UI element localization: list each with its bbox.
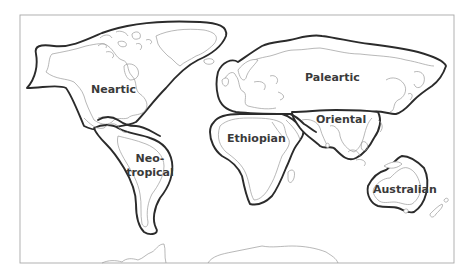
sri-lanka bbox=[326, 143, 330, 147]
label-palearctic: Paleartic bbox=[305, 71, 360, 84]
label-ethiopian: Ethiopian bbox=[227, 132, 286, 145]
label-oriental: Oriental bbox=[316, 113, 366, 126]
label-neotropical-line2: tropical bbox=[126, 166, 174, 179]
label-australian: Australian bbox=[373, 183, 437, 196]
zoogeographic-map: Neartic Neo- tropical Paleartic Ethiopia… bbox=[0, 0, 473, 279]
label-nearctic: Neartic bbox=[91, 83, 136, 96]
map-canvas: Neartic Neo- tropical Paleartic Ethiopia… bbox=[0, 0, 473, 279]
label-neotropical-line1: Neo- bbox=[136, 152, 165, 165]
british-isles bbox=[222, 78, 229, 86]
tasmania bbox=[404, 209, 408, 213]
iceland bbox=[204, 59, 214, 65]
